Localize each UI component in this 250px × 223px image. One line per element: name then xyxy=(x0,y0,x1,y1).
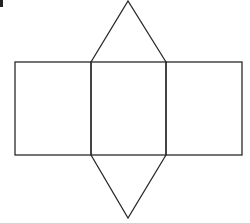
prism-net-diagram xyxy=(0,0,250,223)
left-face xyxy=(15,62,91,155)
right-face xyxy=(166,62,242,155)
top-face xyxy=(91,1,166,62)
middle-face xyxy=(91,62,166,155)
bottom-face xyxy=(91,155,166,218)
